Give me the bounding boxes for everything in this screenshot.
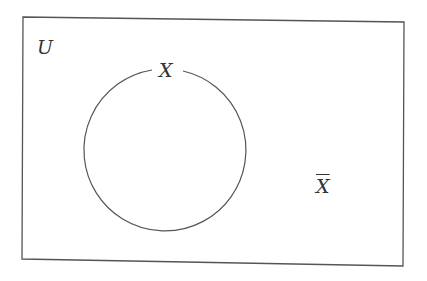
venn-diagram [0,0,427,281]
universe-rectangle [22,17,404,266]
set-x-circle [84,70,246,231]
set-x-label: X [159,61,173,80]
universe-label: U [37,38,53,57]
complement-label: X [316,177,330,196]
